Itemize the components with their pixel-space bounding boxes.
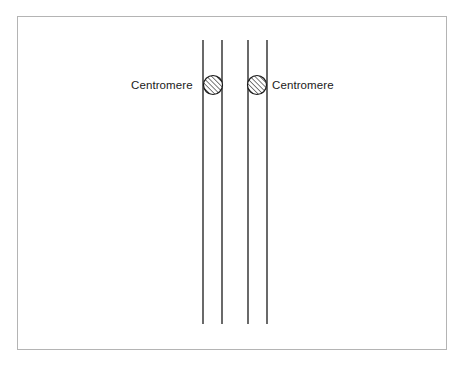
figure-root: Centromere Centromere xyxy=(0,0,466,369)
chromosome-diagram-canvas xyxy=(0,0,466,369)
centromere-label-left: Centromere xyxy=(131,80,193,92)
centromere-right xyxy=(248,76,267,95)
centromere-shapes-group xyxy=(204,76,267,95)
centromere-left xyxy=(204,76,223,95)
centromere-label-right: Centromere xyxy=(272,80,334,92)
